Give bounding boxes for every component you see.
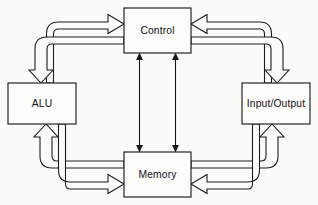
connector-alu-to-memory bbox=[59, 124, 125, 194]
architecture-diagram: Control ALU Input/Output Memory bbox=[0, 0, 318, 205]
connector-control-to-io bbox=[191, 37, 289, 83]
diagram-canvas: Control ALU Input/Output Memory bbox=[0, 0, 318, 205]
node-control[interactable]: Control bbox=[124, 8, 191, 53]
connector-control-memory-left bbox=[136, 53, 143, 153]
node-memory[interactable]: Memory bbox=[124, 152, 191, 197]
node-input-output[interactable]: Input/Output bbox=[242, 83, 310, 124]
connector-alu-to-control bbox=[47, 15, 125, 84]
connector-memory-to-io bbox=[191, 124, 284, 168]
node-input-output-label: Input/Output bbox=[247, 98, 305, 109]
node-memory-label: Memory bbox=[138, 169, 177, 180]
connector-control-memory-right bbox=[172, 53, 179, 153]
connector-memory-to-alu bbox=[34, 124, 124, 168]
connector-io-to-memory bbox=[191, 124, 260, 194]
node-control-label: Control bbox=[140, 25, 174, 36]
connector-control-to-alu bbox=[29, 37, 124, 83]
node-alu-label: ALU bbox=[32, 98, 52, 109]
connector-io-to-control bbox=[191, 15, 272, 84]
node-alu[interactable]: ALU bbox=[8, 83, 76, 124]
